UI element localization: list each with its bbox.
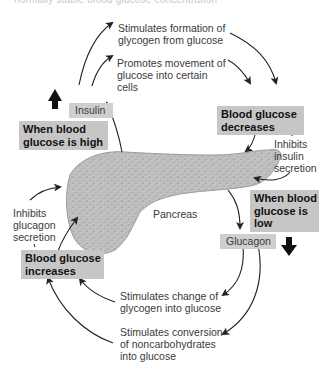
effect-inhibit-insulin: Inhibits insulin secretion xyxy=(274,138,317,174)
text-line: Stimulates change of xyxy=(120,290,221,302)
text-line: glucose is high xyxy=(23,136,103,149)
text-line: secretion xyxy=(274,162,317,174)
up-arrow-icon xyxy=(48,89,62,109)
effect-glycogen-formation: Stimulates formation of glycogen from gl… xyxy=(118,22,225,46)
pancreas-label: Pancreas xyxy=(153,208,197,220)
text-line: cells xyxy=(117,81,226,93)
insulin-box: Insulin xyxy=(69,103,113,118)
text-line: increases xyxy=(25,265,99,278)
text-line: glucagon xyxy=(13,219,56,231)
text-line: Blood glucose xyxy=(25,252,99,265)
text-line: Inhibits xyxy=(274,138,317,150)
state-glucose-low: When blood glucose is low xyxy=(250,190,319,232)
text-line: insulin xyxy=(274,150,317,162)
text-line: When blood xyxy=(23,123,103,136)
text-line: decreases xyxy=(221,121,299,134)
down-arrow-icon xyxy=(281,237,297,256)
effect-glycogenolysis: Stimulates change of glycogen into gluco… xyxy=(120,290,221,314)
text-line: Stimulates formation of xyxy=(118,22,225,34)
text-line: into glucose xyxy=(120,350,223,362)
text-line: low xyxy=(254,217,314,230)
state-glucose-decreases: Blood glucose decreases xyxy=(217,106,304,135)
state-glucose-high: When blood glucose is high xyxy=(19,121,108,150)
effect-glucose-uptake: Promotes movement of glucose into certai… xyxy=(117,57,226,93)
text-line: glycogen from glucose xyxy=(118,34,225,46)
effect-gluconeogenesis: Stimulates conversion of noncarbohydrate… xyxy=(120,326,223,362)
text-line: Stimulates conversion xyxy=(120,326,223,338)
glucagon-box: Glucagon xyxy=(220,234,276,249)
effect-inhibit-glucagon: Inhibits glucagon secretion xyxy=(13,207,56,243)
text-line: Inhibits xyxy=(13,207,56,219)
text-line: glucose is xyxy=(254,205,314,218)
text-line: Promotes movement of xyxy=(117,57,226,69)
text-line: secretion xyxy=(13,231,56,243)
text-line: Blood glucose xyxy=(221,108,299,121)
state-glucose-increases: Blood glucose increases xyxy=(21,250,104,279)
text-line: When blood xyxy=(254,192,314,205)
text-line: of noncarbohydrates xyxy=(120,338,223,350)
text-line: glycogen into glucose xyxy=(120,302,221,314)
text-line: glucose into certain xyxy=(117,69,226,81)
